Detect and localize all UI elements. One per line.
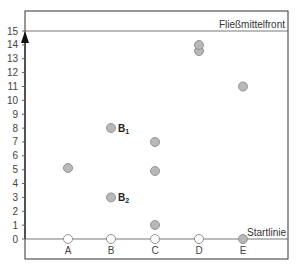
start-point-a [64,235,73,244]
spot-label-b1: B1 [118,123,129,135]
y-tick-11: 11 [8,81,19,92]
lane-label-b: B [108,245,115,256]
start-point-e [239,235,248,244]
spot-d1 [195,41,204,50]
spots [64,41,248,230]
start-point-c [151,235,160,244]
spot-label-b2: B2 [118,192,129,204]
y-tick-9: 9 [12,109,18,120]
spot-b2 [107,193,116,202]
y-tick-4: 4 [12,178,18,189]
y-tick-12: 12 [7,67,19,78]
spot-b1 [107,124,116,133]
spot-c3 [151,221,160,230]
start-point-b [107,235,116,244]
y-tick-14: 14 [7,39,19,50]
start-point-d [195,235,204,244]
spot-c2 [151,167,160,176]
y-tick-3: 3 [12,192,18,203]
solvent-front-label: Fließmittelfront [219,19,285,30]
lane-label-a: A [65,245,72,256]
y-tick-10: 10 [7,95,19,106]
y-tick-13: 13 [7,53,19,64]
y-tick-15: 15 [7,26,19,37]
y-tick-1: 1 [12,220,18,231]
y-tick-5: 5 [12,164,18,175]
chromatogram-diagram: 0 1 2 3 4 5 6 7 8 9 10 11 12 13 14 15 Fl… [0,0,298,265]
y-tick-2: 2 [12,206,18,217]
y-tick-0: 0 [12,234,18,245]
lane-label-e: E [240,245,247,256]
y-ticks: 0 1 2 3 4 5 6 7 8 9 10 11 12 13 14 15 [7,26,25,245]
spot-e [239,82,248,91]
lane-label-d: D [195,245,202,256]
arrow-up-icon [21,31,29,43]
spot-c1 [151,138,160,147]
y-tick-6: 6 [12,150,18,161]
lane-label-c: C [151,245,158,256]
start-line-label: Startlinie [247,227,286,238]
y-tick-7: 7 [12,136,18,147]
spot-a [64,164,73,173]
y-tick-8: 8 [12,123,18,134]
